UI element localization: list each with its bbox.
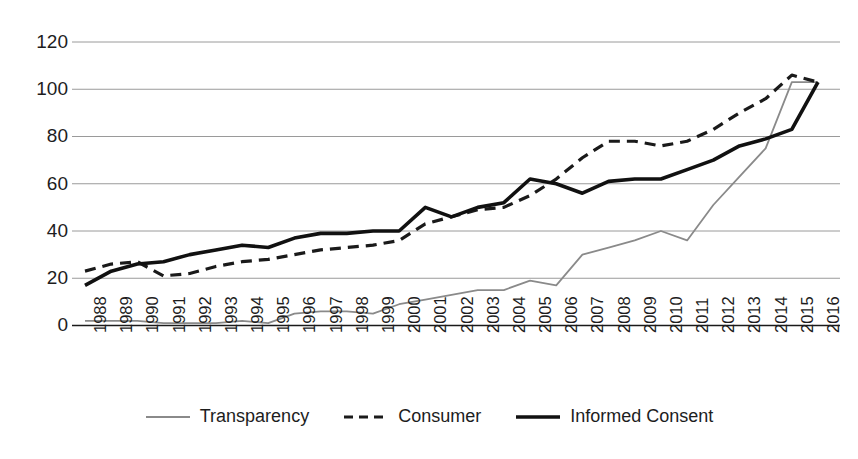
line-solid-gray-icon	[145, 410, 191, 424]
x-axis-tick-label: 1993	[222, 296, 241, 333]
x-axis-tick-label: 1998	[353, 296, 372, 333]
series-line-consumer	[85, 75, 818, 276]
x-axis-tick-label: 2012	[719, 296, 738, 333]
chart-legend: Transparency Consumer Informed Consent	[0, 406, 858, 427]
x-axis-tick-label: 2000	[405, 296, 424, 333]
x-axis-tick-label: 1989	[117, 296, 136, 333]
x-axis-tick-label: 2005	[536, 296, 555, 333]
x-axis-tick-label: 2001	[431, 296, 450, 333]
legend-label: Transparency	[200, 406, 309, 427]
line-dashed-black-icon	[343, 410, 389, 424]
legend-item-informed-consent[interactable]: Informed Consent	[515, 406, 713, 427]
plot-area	[0, 0, 858, 459]
x-axis-tick-label: 2016	[824, 296, 843, 333]
x-axis-tick-label: 1994	[248, 296, 267, 333]
x-axis-tick-label: 2011	[693, 298, 712, 333]
series-line-transparency	[85, 82, 818, 323]
x-axis-tick-label: 2007	[588, 296, 607, 333]
x-axis-tick-label: 2010	[667, 296, 686, 333]
x-axis-tick-label: 2009	[641, 296, 660, 333]
legend-item-transparency[interactable]: Transparency	[145, 406, 309, 427]
legend-item-consumer[interactable]: Consumer	[343, 406, 481, 427]
x-axis-tick-label: 2014	[772, 296, 791, 333]
legend-label: Consumer	[398, 406, 481, 427]
x-axis-tick-label: 1988	[91, 296, 110, 333]
x-axis-tick-label: 2008	[615, 296, 634, 333]
x-axis-tick-label: 1990	[143, 296, 162, 333]
x-axis-tick-label: 1991	[170, 296, 189, 333]
gridlines	[72, 42, 840, 278]
line-chart: 120 100 80 60 40 20 0 198819891990199119…	[0, 0, 858, 459]
line-solid-black-icon	[515, 410, 561, 424]
x-axis-tick-label: 1996	[300, 296, 319, 333]
legend-label: Informed Consent	[570, 406, 713, 427]
x-axis-tick-label: 1999	[379, 296, 398, 333]
x-axis-tick-label: 1995	[274, 296, 293, 333]
x-axis-tick-label: 2003	[484, 296, 503, 333]
x-axis-tick-label: 2013	[745, 296, 764, 333]
x-axis-tick-label: 2002	[458, 296, 477, 333]
x-axis-tick-label: 2006	[562, 296, 581, 333]
x-axis-tick-label: 2015	[798, 296, 817, 333]
x-axis-tick-label: 1992	[196, 296, 215, 333]
x-axis-tick-label: 1997	[327, 296, 346, 333]
x-axis-tick-label: 2004	[510, 296, 529, 333]
series-lines	[85, 75, 818, 323]
